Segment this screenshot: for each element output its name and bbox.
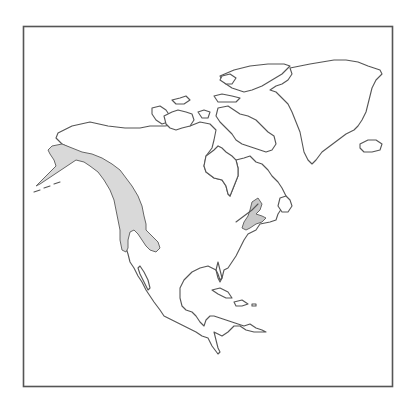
- iceland: [360, 140, 382, 152]
- puerto-rico: [252, 304, 256, 306]
- range-map: [0, 0, 417, 406]
